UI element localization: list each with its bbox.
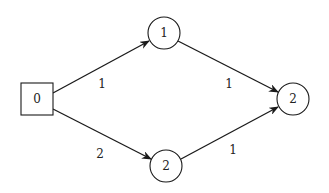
graph-diagram: 1 1 2 1 0 1 2 2 (0, 0, 329, 193)
node-label-2-right: 2 (289, 92, 297, 106)
edge-labels: 1 1 2 1 (96, 77, 237, 161)
node-2-right-circle: 2 (277, 83, 309, 115)
edge-label-0-to-2-bottom: 2 (96, 147, 104, 161)
node-1-circle: 1 (148, 17, 180, 49)
edge-label-2-bottom-to-2-right: 1 (229, 143, 237, 157)
node-label-1: 1 (160, 26, 168, 40)
edge-label-0-to-1: 1 (98, 77, 106, 91)
node-label-2-bottom: 2 (162, 159, 170, 173)
node-0-square: 0 (21, 83, 53, 115)
node-2-bottom-circle: 2 (150, 150, 182, 182)
nodes: 0 1 2 2 (21, 17, 309, 182)
edges (53, 41, 278, 159)
edge-label-1-to-2-right: 1 (225, 77, 233, 91)
node-label-0: 0 (33, 92, 41, 106)
